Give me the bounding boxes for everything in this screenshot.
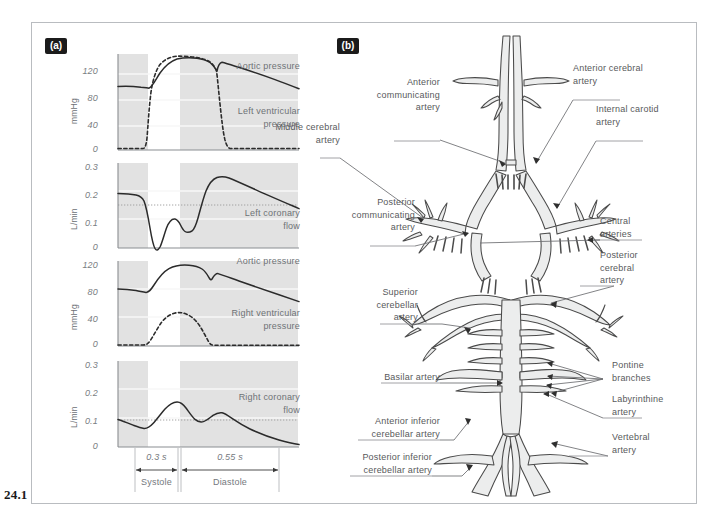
arrow-internal-carotid [553, 203, 560, 209]
chart2-label-line1: Left coronary [160, 208, 300, 219]
pontine-branch-right-2 [520, 344, 554, 350]
aca-branch-right-upper [524, 78, 569, 86]
chart2-ytick-03: 0.3 [68, 162, 98, 172]
arrow-pica [466, 464, 473, 471]
pontine-branch-left-3 [468, 358, 502, 364]
pcomm-perforators-left [481, 278, 496, 294]
panel-b-cerebral-arteries-diagram: Anterior communicating artery Anterior c… [320, 28, 700, 498]
chart3-ytick-40: 40 [72, 314, 98, 324]
leader-vertebral-artery [552, 443, 608, 456]
chart3-label-rv-line2: pressure [156, 321, 300, 332]
sca-left-tip [423, 348, 436, 361]
figure-number: 24.1 [4, 487, 28, 503]
chart3-ytick-0: 0 [72, 339, 98, 349]
chart1-label-lv-line1: Left ventricular [160, 106, 300, 117]
leader-central-arteries [480, 240, 600, 243]
label-basilar-artery: Basilar artery [345, 371, 440, 384]
mca-right-branch-2 [589, 200, 597, 218]
left-anterior-cerebral-artery [496, 36, 510, 171]
chart3-label-aortic: Aortic pressure [168, 256, 300, 267]
left-posterior-communicating-artery [471, 233, 491, 281]
label-anterior-cerebral-artery: Anterior cerebral artery [573, 62, 701, 87]
pca-right-distal-2 [601, 328, 617, 337]
chart1-label-aortic: Aortic pressure [168, 61, 300, 72]
label-labyrinthine-artery: Labyrinthine artery [612, 393, 702, 418]
chart1-ytick-0: 0 [72, 144, 98, 154]
systole-duration: 0.3 s [135, 452, 178, 462]
chart2-ytick-01: 0.1 [68, 218, 98, 228]
chart3-label-rv-line1: Right ventricular [156, 308, 300, 319]
central-arteries-left [434, 236, 462, 253]
chart3-ytick-80: 80 [72, 287, 98, 297]
chart3-ytick-120: 120 [72, 260, 98, 270]
figure-root: 24.1 (a) (b) mmHg 120 80 40 0 Aortic pre… [0, 0, 714, 522]
chart1-ytick-40: 40 [72, 120, 98, 130]
chart-right-heart-pressure: mmHg 120 80 40 0 Aortic pressure Right v… [40, 256, 305, 366]
chart2-label-line2: flow [160, 221, 300, 232]
left-internal-carotid-artery [466, 171, 506, 229]
chart1-ytick-120: 120 [72, 66, 98, 76]
leader-aica [440, 420, 470, 440]
mca-left-branch-2 [425, 200, 433, 218]
left-middle-cerebral-artery [406, 218, 466, 234]
aca-branch-left-lower [481, 96, 500, 108]
chart4-ytick-03: 0.3 [68, 360, 98, 370]
pcomm-perforators-right [526, 278, 541, 294]
label-central-arteries: Central arteries [600, 215, 690, 240]
chart4-ytick-01: 0.1 [68, 416, 98, 426]
leader-pica [432, 466, 472, 476]
label-posterior-cerebral-artery: Posterior cerebral artery [600, 249, 690, 287]
pca-right-distal-1 [609, 316, 623, 328]
label-pontine-branches: Pontine branches [612, 359, 702, 384]
diastole-duration: 0.55 s [181, 452, 279, 462]
leader-anterior-cerebral [536, 100, 573, 163]
sca-right-tip [586, 348, 599, 361]
label-superior-cerebellar-artery: Superior cerebellar artery [328, 286, 418, 324]
leader-posterior-communicating [415, 233, 468, 246]
chart2-ytick-02: 0.2 [68, 190, 98, 200]
anterior-communicating-artery-vessel [506, 160, 516, 165]
basilar-artery-vessel [500, 300, 522, 434]
label-anterior-inferior-cerebellar-artery: Anterior inferior cerebellar artery [338, 415, 440, 440]
right-posterior-communicating-artery [531, 233, 551, 281]
leader-anterior-communicating [440, 140, 505, 163]
pontine-branch-right-1 [520, 330, 554, 336]
arrow-vertebral [551, 441, 558, 448]
right-internal-carotid-artery [516, 171, 556, 229]
systole-label: Systole [135, 477, 178, 487]
label-posterior-communicating-artery: Posterior communicating artery [310, 196, 415, 234]
label-middle-cerebral-artery: Middle cerebral artery [250, 121, 340, 146]
chart2-ytick-0: 0 [68, 242, 98, 252]
chart4-label-line2: flow [160, 405, 300, 416]
mca-right-branch-3 [575, 203, 584, 221]
aca-branch-left-upper [453, 78, 498, 86]
chart4-ytick-0: 0 [68, 441, 98, 451]
panel-a-pressure-flow-charts: mmHg 120 80 40 0 Aortic pressure Left ve… [40, 28, 305, 493]
leader-posterior-cerebral [551, 286, 614, 303]
leader-labyrinthine-artery [544, 393, 603, 418]
central-arteries-right [560, 236, 588, 253]
arrow-aica [465, 418, 471, 425]
label-anterior-communicating-artery: Anterior communicating artery [320, 76, 440, 114]
chart4-label-line1: Right coronary [160, 392, 300, 403]
label-posterior-inferior-cerebellar-artery: Posterior inferior cerebellar artery [330, 451, 432, 476]
posterior-inferior-cerebellar-artery-left [434, 455, 494, 465]
timing-brackets: 0.3 s 0.55 s Systole Diastole [103, 448, 303, 496]
leader-internal-carotid [557, 141, 596, 208]
pontine-branch-left-1 [468, 330, 502, 336]
diastole-label: Diastole [181, 477, 279, 487]
mca-left-branch-3 [438, 203, 447, 221]
right-anterior-cerebral-artery [513, 36, 526, 171]
pca-left-distal-2 [405, 328, 421, 337]
pontine-branch-left-2 [468, 344, 502, 350]
chart-left-coronary-flow: L/min 0.3 0.2 0.1 0 Left coronary flow [40, 158, 305, 266]
chart1-ytick-80: 80 [72, 93, 98, 103]
label-internal-carotid-artery: Internal carotid artery [596, 103, 714, 128]
chart4-ytick-02: 0.2 [68, 388, 98, 398]
labyrinthine-artery-left [456, 386, 502, 393]
label-vertebral-artery: Vertebral artery [612, 431, 702, 456]
aca-branch-right-lower [522, 96, 541, 108]
anterior-inferior-cerebellar-artery-left [436, 369, 502, 380]
